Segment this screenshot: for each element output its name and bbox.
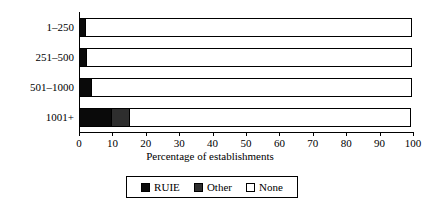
x-tick-label-70: 70 [299,137,327,149]
x-tick-50 [246,132,247,136]
legend-label-ruie: RUIE [154,181,180,193]
x-tick-label-90: 90 [366,137,394,149]
bar-4-segment-none [129,108,411,127]
x-tick-label-10: 10 [98,137,126,149]
legend-item-ruie: RUIE [141,181,180,193]
category-label-2: 251–500 [0,51,74,63]
x-tick-label-30: 30 [165,137,193,149]
x-tick-20 [146,132,147,136]
category-label-4: 1001+ [0,111,74,123]
x-tick-10 [112,132,113,136]
none-swatch-icon [246,183,255,192]
bar-3-segment-ruie [79,78,92,97]
category-label-1: 1–250 [0,21,74,33]
legend-label-none: None [259,181,283,193]
x-tick-0 [79,132,80,136]
x-axis-title: Percentage of establishments [0,150,420,162]
x-tick-label-60: 60 [265,137,293,149]
bar-2 [79,48,413,67]
x-tick-label-20: 20 [132,137,160,149]
bar-1-segment-none [85,18,412,37]
bar-3-segment-none [91,78,412,97]
chart-legend: RUIE Other None [126,176,298,198]
bar-2-segment-none [86,48,412,67]
category-label-3: 501–1000 [0,81,74,93]
x-tick-40 [213,132,214,136]
bar-4-segment-ruie [79,108,112,127]
legend-item-other: Other [194,181,232,193]
x-tick-label-0: 0 [65,137,93,149]
x-tick-label-80: 80 [332,137,360,149]
ruie-swatch-icon [141,183,150,192]
bar-1 [79,18,413,37]
x-tick-90 [380,132,381,136]
bar-4-segment-other [111,108,129,127]
x-tick-60 [279,132,280,136]
x-tick-70 [313,132,314,136]
x-tick-label-40: 40 [199,137,227,149]
x-tick-label-100: 100 [399,137,426,149]
x-tick-label-50: 50 [232,137,260,149]
bar-4 [79,108,413,127]
x-tick-30 [179,132,180,136]
x-tick-100 [413,132,414,136]
legend-label-other: Other [207,181,232,193]
bar-3 [79,78,413,97]
other-swatch-icon [194,183,203,192]
legend-item-none: None [246,181,283,193]
x-tick-80 [346,132,347,136]
